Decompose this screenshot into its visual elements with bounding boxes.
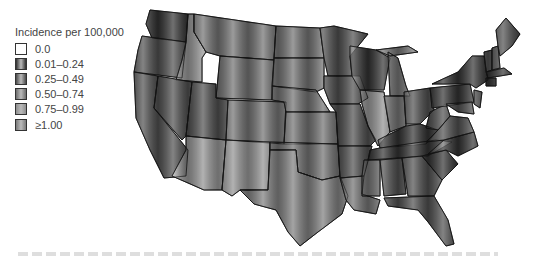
legend-label: 0.75–0.99 [35,103,84,115]
legend-swatch [15,73,27,85]
state-sheen-ks [284,112,338,144]
state-sheen-al [380,158,406,196]
state-sheen-fl [384,196,454,246]
legend-label: 0.01–0.24 [35,58,84,70]
legend-items: 0.00.01–0.240.25–0.490.50–0.740.75–0.99≥… [15,41,124,132]
legend-item: 0.01–0.24 [15,56,124,71]
legend-label: ≥1.00 [35,119,62,131]
state-sheen-ms [362,160,380,196]
legend-swatch [15,119,27,131]
state-sheen-co [226,100,286,144]
state-sheen-nd [274,26,324,58]
legend-label: 0.25–0.49 [35,73,84,85]
legend-item: 0.25–0.49 [15,71,124,86]
state-sheen-me [496,18,520,56]
legend-label: 0.50–0.74 [35,88,84,100]
legend-item: 0.50–0.74 [15,87,124,102]
state-sheen-nm [222,140,270,196]
legend-swatch [15,103,27,115]
state-sheen-nj [474,90,482,108]
states-sheen-layer [134,10,520,246]
legend-label: 0.0 [35,43,50,55]
state-sheen-wy [216,56,274,100]
state-sheen-mt [194,14,276,60]
legend-swatch [15,58,27,70]
legend-swatch [15,43,27,55]
legend-title: Incidence per 100,000 [15,26,124,38]
legend-item: 0.75–0.99 [15,102,124,117]
state-sheen-ny [432,56,488,88]
caption-cutoff [18,252,498,256]
us-choropleth-map [128,0,528,250]
state-sheen-md [446,102,474,114]
state-sheen-ct [486,78,496,86]
legend-item: 0.0 [15,41,124,56]
legend: Incidence per 100,000 0.00.01–0.240.25–0… [15,26,124,132]
legend-item: ≥1.00 [15,117,124,132]
legend-swatch [15,88,27,100]
